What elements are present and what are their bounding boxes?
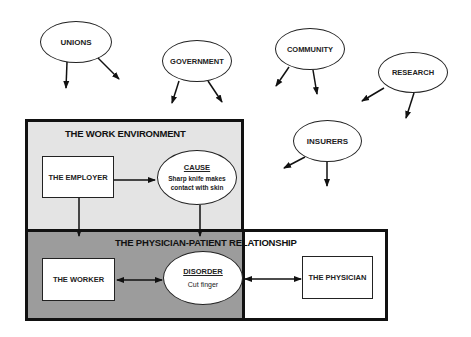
community-arrow-down [313,70,317,94]
community-label: COMMUNITY [287,45,333,54]
research-arrow-down [406,93,414,118]
unions-label: UNIONS [60,38,91,47]
cause-text-line1: Sharp knife makes [168,174,225,183]
insurers-arrow-left [284,157,305,168]
cause-node: CAUSE Sharp knife makes contact with ski… [157,150,237,205]
government-node: GOVERNMENT [162,40,232,82]
research-label: RESEARCH [392,68,434,77]
unions-arrow-down [66,62,67,88]
disorder-text: Cut finger [188,280,218,289]
insurers-node: INSURERS [293,120,362,162]
community-node: COMMUNITY [275,28,345,70]
government-arrow-left [172,81,179,103]
unions-arrow-diag [98,58,119,79]
employer-box: THE EMPLOYER [42,156,114,198]
research-node: RESEARCH [378,52,448,93]
worker-box: THE WORKER [42,258,115,301]
cause-text-line2: contact with skin [171,183,224,192]
worker-label: THE WORKER [53,275,104,284]
physician-patient-title: THE PHYSICIAN-PATIENT RELATIONSHIP [115,237,297,248]
insurers-label: INSURERS [307,137,348,146]
disorder-node: DISORDER Cut finger [163,251,243,305]
employer-label: THE EMPLOYER [48,173,107,182]
work-environment-title: THE WORK ENVIRONMENT [65,128,186,139]
cause-heading: CAUSE [184,163,210,172]
physician-label: THE PHYSICIAN [309,273,367,282]
community-arrow-left [276,67,289,86]
government-arrow-right [208,81,222,102]
physician-box: THE PHYSICIAN [302,256,373,299]
unions-node: UNIONS [40,21,112,63]
research-arrow-left [362,88,384,101]
government-label: GOVERNMENT [170,57,224,66]
disorder-heading: DISORDER [183,267,223,276]
